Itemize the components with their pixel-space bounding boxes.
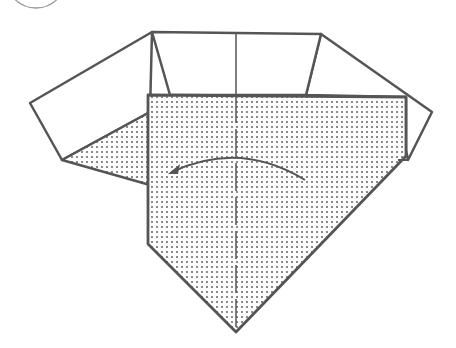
step-number-circle <box>6 0 66 8</box>
front-shaded-flap <box>148 95 406 332</box>
origami-diagram <box>0 0 456 348</box>
